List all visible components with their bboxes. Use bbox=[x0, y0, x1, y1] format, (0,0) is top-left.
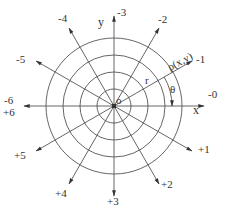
ray-label: -3 bbox=[117, 6, 127, 18]
polar-coordinate-diagram: -0-1-2-3-4-5-6+5+4+3+2+1 +6 x y o r θ ρ(… bbox=[0, 0, 225, 215]
origin-label: o bbox=[116, 94, 122, 106]
ray-label: -0 bbox=[208, 88, 218, 100]
theta-label: θ bbox=[170, 83, 175, 95]
ray-arrow-330 bbox=[114, 106, 192, 151]
ray-arrow-240 bbox=[69, 106, 114, 184]
ray-arrow-150 bbox=[36, 61, 114, 106]
ray-label: +1 bbox=[198, 143, 210, 155]
ray-label: -2 bbox=[158, 13, 167, 25]
label-plus-six: +6 bbox=[3, 106, 15, 118]
ray-label: -4 bbox=[58, 12, 68, 24]
ray-label: -1 bbox=[196, 53, 205, 65]
point-label: ρ(x,y) bbox=[165, 50, 195, 74]
ray-label: -5 bbox=[16, 53, 26, 65]
radius-label: r bbox=[145, 74, 149, 86]
ray-labels: -0-1-2-3-4-5-6+5+4+3+2+1 bbox=[4, 6, 218, 207]
ray-label: +2 bbox=[161, 178, 173, 190]
ray-label: +5 bbox=[14, 149, 26, 161]
x-axis-label: x bbox=[193, 103, 199, 117]
y-axis-label: y bbox=[98, 15, 104, 29]
ray-label: -6 bbox=[4, 94, 14, 106]
ray-label: +3 bbox=[107, 195, 119, 207]
ray-arrow-120 bbox=[69, 28, 114, 106]
ray-label: +4 bbox=[55, 187, 67, 199]
ray-arrow-210 bbox=[36, 106, 114, 151]
ray-arrow-300 bbox=[114, 106, 159, 184]
